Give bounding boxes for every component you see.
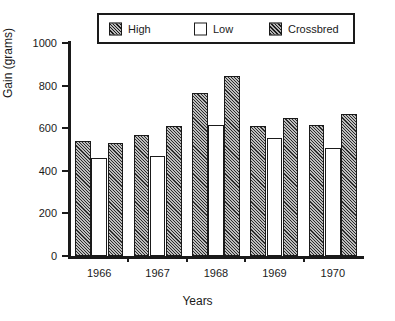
x-axis-title: Years xyxy=(0,295,395,307)
x-tick xyxy=(127,256,129,262)
bar-low-1966 xyxy=(91,158,107,256)
x-tick-label-1970: 1970 xyxy=(313,268,353,279)
y-tick-1000 xyxy=(62,42,69,44)
x-tick-label-1968: 1968 xyxy=(196,268,236,279)
y-tick-800 xyxy=(62,85,69,87)
y-tick-400 xyxy=(62,170,69,172)
y-tick-label-0: 0 xyxy=(17,251,57,262)
y-tick-200 xyxy=(62,212,69,214)
y-tick-label-800: 800 xyxy=(17,81,57,92)
bar-high-1966 xyxy=(75,141,91,256)
x-tick-label-1967: 1967 xyxy=(138,268,178,279)
legend-label-crossbred: Crossbred xyxy=(288,23,339,34)
bar-high-1969 xyxy=(250,126,266,256)
y-tick-label-600: 600 xyxy=(17,123,57,134)
bar-crossbred-1968 xyxy=(224,76,240,256)
y-tick-label-200: 200 xyxy=(17,208,57,219)
y-axis-title: Gain (grams) xyxy=(2,28,14,98)
legend-swatch-high-icon xyxy=(109,22,122,35)
y-tick-600 xyxy=(62,127,69,129)
legend-swatch-crossbred-icon xyxy=(269,22,282,35)
bar-crossbred-1970 xyxy=(341,114,357,256)
bar-low-1968 xyxy=(208,125,224,256)
chart-legend: High Low Crossbred xyxy=(97,13,355,44)
legend-entry-low: Low xyxy=(194,22,233,35)
bar-low-1967 xyxy=(150,156,166,256)
legend-entry-high: High xyxy=(109,22,151,35)
bar-crossbred-1966 xyxy=(108,143,124,256)
bar-crossbred-1967 xyxy=(166,126,182,256)
bar-high-1968 xyxy=(192,93,208,256)
bars-layer xyxy=(70,43,362,256)
bar-high-1970 xyxy=(309,125,325,256)
plot-area xyxy=(70,43,362,256)
bar-low-1969 xyxy=(267,138,283,256)
legend-label-low: Low xyxy=(213,23,233,34)
x-tick xyxy=(303,256,305,262)
legend-label-high: High xyxy=(128,23,151,34)
x-tick-label-1966: 1966 xyxy=(79,268,119,279)
x-axis-line xyxy=(68,256,364,259)
y-tick-label-400: 400 xyxy=(17,166,57,177)
bar-low-1970 xyxy=(325,148,341,256)
y-tick-label-1000: 1000 xyxy=(17,38,57,49)
y-tick-0 xyxy=(62,255,69,257)
x-tick xyxy=(244,256,246,262)
bar-crossbred-1969 xyxy=(283,118,299,256)
x-tick-label-1969: 1969 xyxy=(254,268,294,279)
legend-swatch-low-icon xyxy=(194,22,207,35)
bar-chart: High Low Crossbred Gain (grams) 02004006… xyxy=(0,0,395,321)
x-tick xyxy=(186,256,188,262)
legend-entry-crossbred: Crossbred xyxy=(269,22,339,35)
bar-high-1967 xyxy=(134,135,150,256)
